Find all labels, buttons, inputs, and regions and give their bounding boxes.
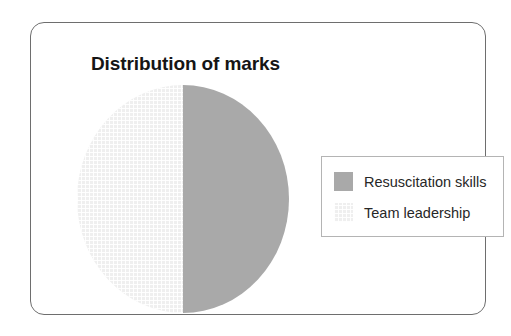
legend-label-team-leadership: Team leadership	[364, 205, 470, 221]
pie-slice-resuscitation-skills[interactable]	[183, 85, 289, 313]
chart-frame: Distribution of marks Resuscitation skil…	[30, 22, 486, 315]
pie-slice-team-leadership[interactable]	[77, 85, 183, 313]
legend-item-team-leadership[interactable]: Team leadership	[334, 197, 503, 228]
legend-label-resuscitation-skills: Resuscitation skills	[364, 174, 487, 190]
legend-swatch-icon-team-leadership	[334, 203, 353, 222]
pie-chart	[77, 85, 289, 313]
legend-swatch-icon-resuscitation-skills	[334, 172, 353, 191]
chart-title: Distribution of marks	[91, 53, 280, 75]
pie-chart-area	[77, 85, 289, 313]
legend-item-resuscitation-skills[interactable]: Resuscitation skills	[334, 166, 503, 197]
chart-legend: Resuscitation skills Team leadership	[321, 156, 504, 237]
